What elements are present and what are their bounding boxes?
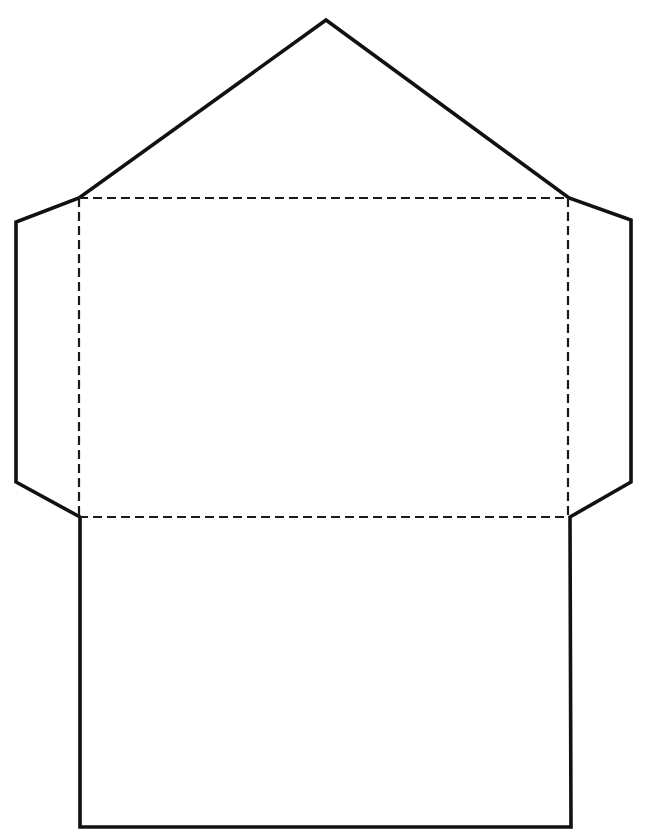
bottom-flap-region [80, 517, 571, 827]
left-side-flap-region [16, 198, 80, 517]
right-side-flap-region [568, 198, 631, 517]
main-body-panel-region [79, 198, 568, 517]
envelope-template-canvas [0, 0, 648, 837]
envelope-diagram [0, 0, 648, 837]
